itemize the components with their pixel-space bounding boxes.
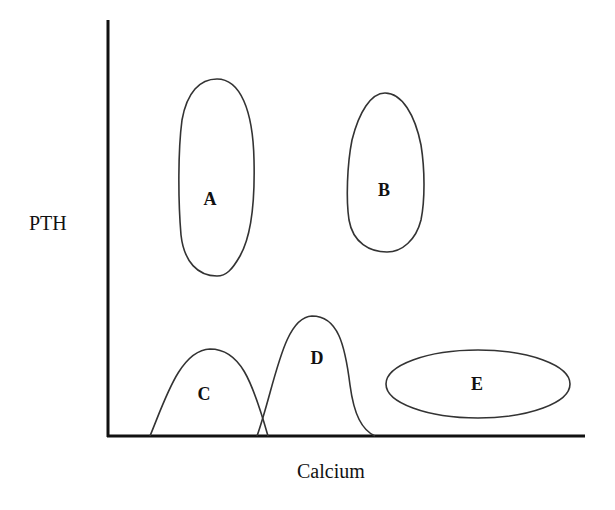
region-a-label: A <box>204 189 217 209</box>
region-d-label: D <box>311 348 324 368</box>
region-c-label: C <box>198 384 211 404</box>
x-axis-label: Calcium <box>297 460 365 482</box>
region-d-shape <box>257 316 375 436</box>
region-a-shape <box>179 79 254 276</box>
region-b-shape <box>347 93 424 252</box>
region-b-label: B <box>378 180 390 200</box>
region-e-label: E <box>471 374 483 394</box>
pth-calcium-diagram: PTH Calcium A B C D E <box>0 0 615 510</box>
y-axis-label: PTH <box>29 212 67 234</box>
